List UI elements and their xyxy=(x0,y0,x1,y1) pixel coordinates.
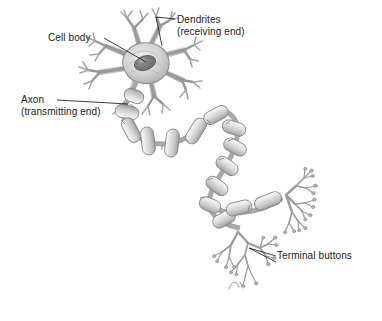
label-terminal-buttons-line1: Terminal buttons xyxy=(277,250,352,261)
label-cell-body: Cell body xyxy=(48,32,91,44)
neuron-diagram-figure: Cell body Dendrites (receiving end) Axon… xyxy=(0,0,382,321)
cell-body-soma xyxy=(123,43,169,84)
label-axon-line1: Axon xyxy=(21,94,44,105)
neuron-illustration xyxy=(0,0,382,321)
terminal-buttons-lower xyxy=(213,232,278,288)
myelin-sheath-segments xyxy=(114,86,284,230)
label-dendrites: Dendrites (receiving end) xyxy=(177,14,245,38)
label-axon: Axon (transmitting end) xyxy=(21,94,101,118)
stray-mark xyxy=(229,282,243,289)
label-dendrites-line2: (receiving end) xyxy=(177,26,245,38)
label-dendrites-line1: Dendrites xyxy=(177,14,221,25)
label-cell-body-line1: Cell body xyxy=(48,32,91,43)
label-axon-line2: (transmitting end) xyxy=(21,106,101,118)
label-terminal-buttons: Terminal buttons xyxy=(277,250,352,262)
terminal-buttons-upper xyxy=(284,167,317,234)
